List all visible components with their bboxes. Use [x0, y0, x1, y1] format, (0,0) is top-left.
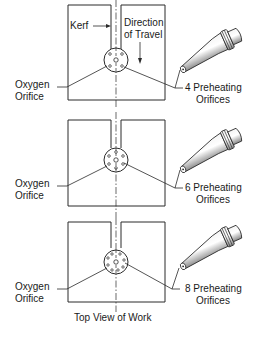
oxygen-orifice-label-line2: Orifice: [15, 190, 44, 201]
oxygen-orifice-label-line2: Orifice: [15, 91, 44, 102]
direction-label-line1: Direction: [124, 17, 163, 28]
caption: Top View of Work: [74, 312, 152, 323]
cutting-tip-diagram: Kerf Direction of Travel Oxygen Orifice …: [0, 0, 262, 340]
preheating-label-line1: 6 Preheating: [185, 182, 242, 193]
preheating-label-line2: Orifices: [196, 94, 230, 105]
oxygen-orifice-label-line1: Oxygen: [15, 281, 49, 292]
panel-6-preheating: Oxygen Orifice 6 Preheating Orifices: [15, 112, 245, 218]
preheating-label-line2: Orifices: [196, 295, 230, 306]
panel-4-preheating: Kerf Direction of Travel Oxygen Orifice …: [15, 0, 245, 108]
preheating-label-line1: 8 Preheating: [185, 283, 242, 294]
preheating-label-line2: Orifices: [196, 194, 230, 205]
oxygen-orifice-label-line1: Oxygen: [15, 178, 49, 189]
direction-arrow-icon: [138, 58, 142, 64]
cutting-torch-tip-icon: [173, 222, 245, 271]
cutting-torch-tip-icon: [173, 25, 245, 74]
panel-8-preheating: Oxygen Orifice 8 Preheating Orifices: [15, 218, 245, 312]
oxygen-orifice-label-line2: Orifice: [15, 293, 44, 304]
preheating-label-line1: 4 Preheating: [185, 82, 242, 93]
direction-label-line2: of Travel: [124, 29, 162, 40]
kerf-label: Kerf: [70, 20, 89, 31]
cutting-torch-tip-icon: [173, 125, 245, 174]
oxygen-orifice-label-line1: Oxygen: [15, 79, 49, 90]
